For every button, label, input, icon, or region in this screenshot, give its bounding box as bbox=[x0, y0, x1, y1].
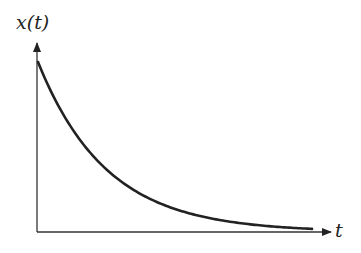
chart-canvas bbox=[0, 0, 361, 253]
x-axis-label: t bbox=[335, 219, 343, 241]
decay-curve bbox=[38, 62, 312, 229]
y-axis-label: x(t) bbox=[16, 11, 49, 33]
